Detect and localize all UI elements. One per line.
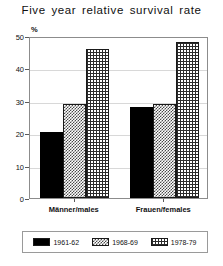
chart-legend: 1961-621968-691978-79 — [22, 231, 208, 253]
legend-swatch-icon — [151, 238, 168, 246]
legend-label: 1961-62 — [53, 239, 79, 246]
bar-1961-62-males — [40, 132, 63, 198]
y-tick-label: 20 — [0, 130, 24, 139]
y-tick-label: 30 — [0, 98, 24, 107]
y-tick-mark — [25, 199, 29, 200]
x-tick-mark — [74, 199, 75, 202]
plot-area — [29, 37, 208, 199]
bar-1978-79-females — [176, 42, 199, 198]
legend-item-1968-69[interactable]: 1968-69 — [92, 238, 138, 246]
bar-1978-79-males — [86, 49, 109, 198]
legend-swatch-icon — [33, 238, 50, 246]
y-axis-unit-label: % — [31, 25, 38, 34]
x-tick-mark — [163, 199, 164, 202]
y-tick-label: 0 — [0, 195, 24, 204]
chart-title: Five year relative survival rate — [0, 4, 223, 16]
bar-series-layer — [30, 38, 207, 198]
legend-item-1978-79[interactable]: 1978-79 — [151, 238, 197, 246]
bar-1968-69-females — [153, 104, 176, 198]
y-tick-label: 40 — [0, 65, 24, 74]
bar-1961-62-females — [130, 107, 153, 198]
x-category-label: Männer/males — [29, 205, 119, 214]
legend-swatch-icon — [92, 238, 109, 246]
legend-label: 1978-79 — [171, 239, 197, 246]
y-tick-label: 10 — [0, 163, 24, 172]
bar-1968-69-males — [63, 104, 86, 198]
chart-container: Five year relative survival rate % 01020… — [0, 0, 223, 266]
legend-label: 1968-69 — [112, 239, 138, 246]
legend-item-1961-62[interactable]: 1961-62 — [33, 238, 79, 246]
y-tick-label: 50 — [0, 33, 24, 42]
x-category-label: Frauen/females — [118, 205, 208, 214]
